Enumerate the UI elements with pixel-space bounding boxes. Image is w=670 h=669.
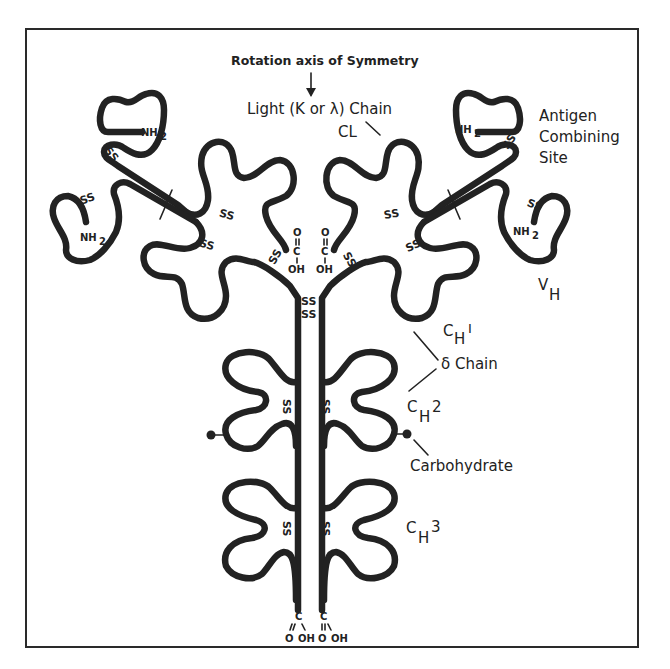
left-light-cooh: O C OH [288,227,305,275]
antibody-diagram: Rotation axis of Symmetry Light (K or λ)… [0,0,670,669]
ss-bond: SS [319,399,332,414]
nh2-lower-right: NH2 [513,226,539,241]
svg-text:H: H [454,330,465,348]
svg-text:3: 3 [431,518,441,536]
ss-bond: SS [280,399,293,414]
svg-text:2: 2 [99,236,106,247]
ss-bond: SS [198,237,216,254]
svg-text:H: H [549,286,560,304]
svg-text:H: H [418,529,429,547]
svg-text:H: H [419,408,430,426]
svg-text:C: C [406,519,416,537]
svg-text:C: C [407,398,417,416]
right-light-cooh: O C OH [316,227,333,275]
svg-text:OH: OH [316,264,333,275]
ch1-label: C H I [443,321,472,348]
svg-text:O: O [318,633,327,644]
symmetry-axis-label: Rotation axis of Symmetry [231,53,419,68]
inter-heavy-ss-bond-1: SS [301,295,316,308]
svg-text:2: 2 [532,230,539,241]
carbohydrate-right-icon [396,430,412,439]
svg-text:OH: OH [331,633,348,644]
carbohydrate-label: Carbohydrate [410,457,513,475]
antigen-site-label-3: Site [539,149,568,167]
svg-text:OH: OH [298,633,315,644]
svg-text:C: C [320,611,327,622]
inter-heavy-ss-bond-2: SS [301,308,316,321]
gamma-chain-label: δ Chain [441,355,498,373]
svg-text:O: O [293,227,302,238]
svg-text:2: 2 [432,398,442,416]
svg-text:C: C [321,246,328,257]
vh-label: V H [538,276,560,304]
svg-text:O: O [321,227,330,238]
right-heavy-cooh: C O OH [318,611,348,644]
svg-text:C: C [443,322,453,340]
right-heavy-chain-ch1 [322,222,476,610]
ch1-leader-line [414,332,438,360]
light-chain-label: Light (K or λ) Chain [247,100,392,118]
carbohydrate-left-icon [207,431,225,440]
cl-label: CL [338,123,357,141]
svg-text:O: O [285,633,294,644]
svg-text:I: I [468,321,472,336]
right-ch3-domain [324,482,395,600]
carbohydrate-leader-line [414,440,428,455]
nh2-lower-left: NH2 [80,232,106,247]
ss-bond: SS [78,190,97,207]
svg-text:OH: OH [288,264,305,275]
svg-text:NH: NH [80,232,97,243]
ss-bond: SS [266,247,285,267]
svg-text:2: 2 [474,128,481,139]
right-ch2-domain [324,352,395,449]
ch3-label: C H 3 [406,518,441,547]
ss-bond: SS [280,521,293,536]
svg-text:C: C [295,611,302,622]
svg-text:V: V [538,276,549,294]
svg-text:C: C [293,246,300,257]
svg-text:2: 2 [160,131,167,142]
ch2-label: C H 2 [407,398,442,426]
ss-bond: SS [383,206,400,221]
ch2-leader-line [409,369,436,391]
antigen-site-label-1: Antigen [539,107,597,125]
svg-text:NH: NH [455,124,472,135]
antigen-site-label-2: Combining [539,128,620,146]
left-ch3-domain [225,482,296,600]
cl-leader-line [366,122,380,135]
left-heavy-cooh: C O OH [285,611,315,644]
left-heavy-chain-ch1 [144,222,298,610]
ss-bond: SS [218,207,236,224]
down-arrow-icon [306,73,316,97]
svg-text:NH: NH [513,226,530,237]
svg-text:NH: NH [141,127,158,138]
ss-bond: SS [319,521,332,536]
